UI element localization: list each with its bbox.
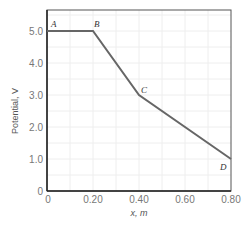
y-tick-3: 3.0 (29, 90, 43, 101)
grid (47, 10, 231, 191)
point-label-b: B (94, 19, 100, 29)
potential-chart: A B C D 0 1.0 2.0 3.0 4.0 5.0 0 0.20 0.4… (0, 0, 249, 228)
point-label-d: D (219, 162, 227, 172)
y-axis-label: Potential, V (10, 88, 20, 134)
y-tick-5: 5.0 (29, 26, 43, 37)
x-axis-label: x, m (130, 208, 149, 218)
x-tick-1: 0.20 (83, 194, 103, 205)
x-tick-3: 0.60 (175, 194, 195, 205)
y-tick-2: 2.0 (29, 122, 43, 133)
x-tick-2: 0.40 (129, 194, 149, 205)
x-tick-4: 0.80 (221, 194, 241, 205)
y-tick-1: 1.0 (29, 154, 43, 165)
point-label-c: C (141, 85, 148, 95)
y-tick-4: 4.0 (29, 58, 43, 69)
y-tick-0: 0 (37, 186, 43, 197)
point-label-a: A (50, 19, 57, 29)
x-tick-0: 0 (45, 194, 51, 205)
